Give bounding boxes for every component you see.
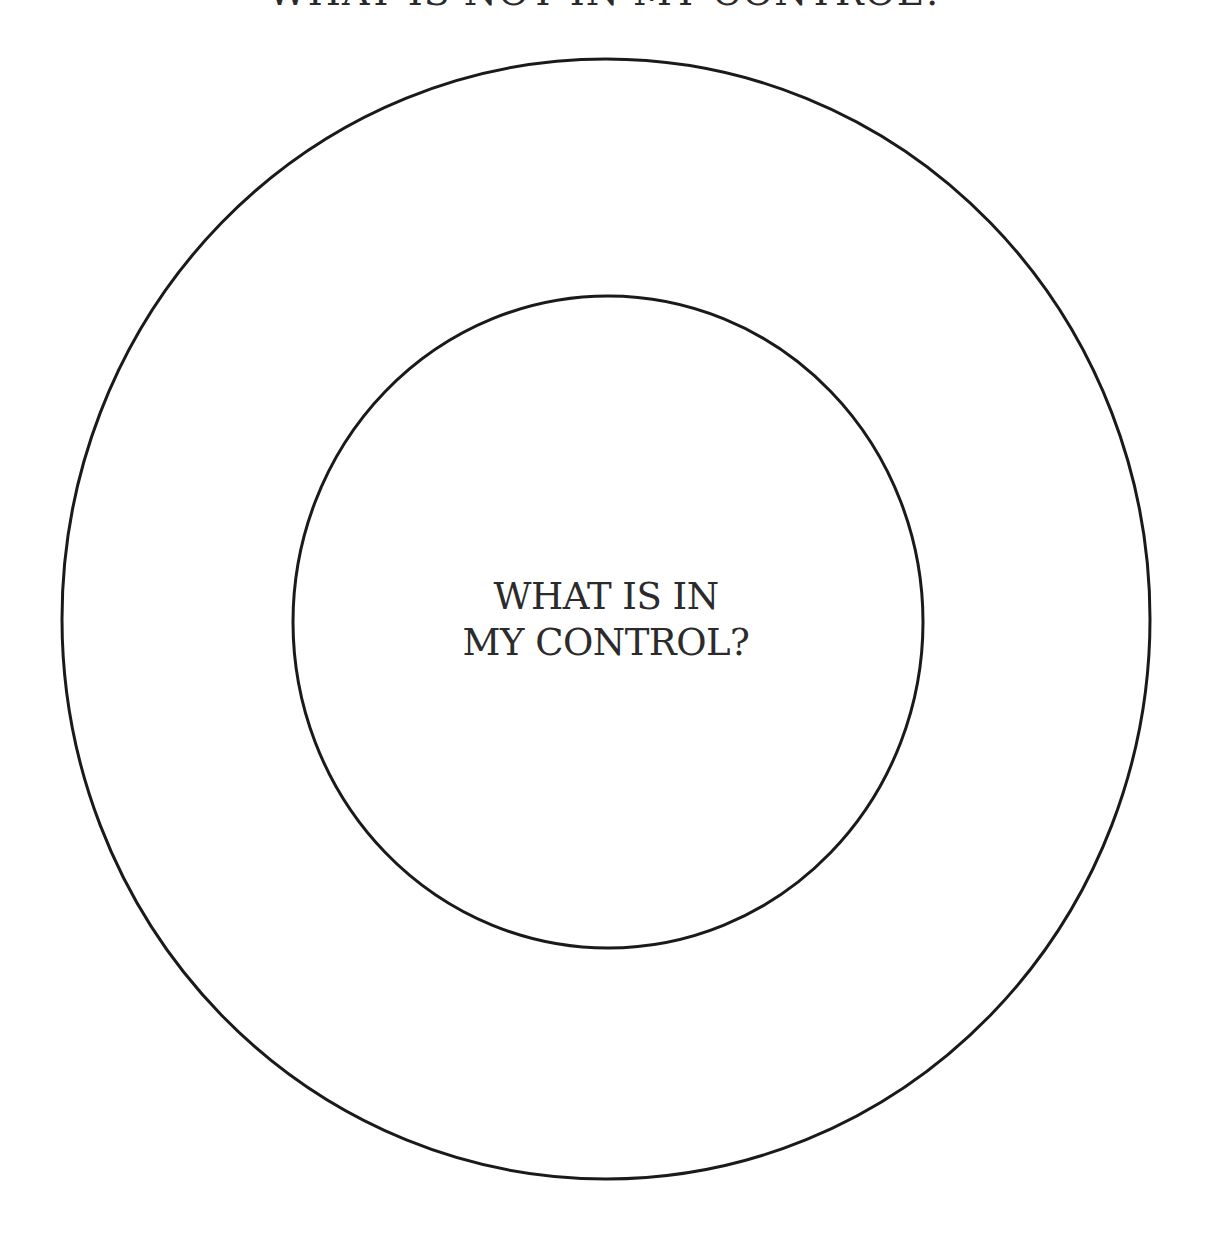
inner-label-line-2: MY CONTROL? — [456, 620, 756, 666]
inner-circle-label: WHAT IS IN MY CONTROL? — [456, 574, 756, 666]
inner-label-line-1: WHAT IS IN — [456, 574, 756, 620]
